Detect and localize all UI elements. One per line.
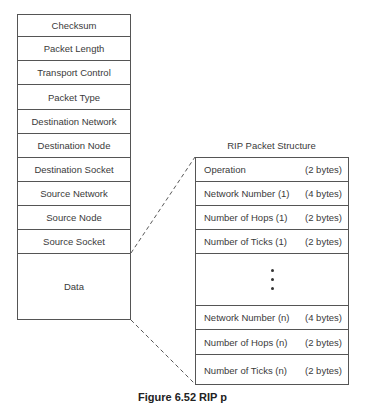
ipx-field-destination-network: Destination Network (18, 110, 130, 134)
rip-row-operation: Operation (2 bytes) (196, 158, 348, 182)
rip-row-ticks-1: Number of Ticks (1) (2 bytes) (196, 230, 348, 254)
rip-packet-diagram: Operation (2 bytes) Network Number (1) (… (195, 157, 349, 385)
rip-field-size: (2 bytes) (305, 337, 342, 348)
rip-field-name: Network Number (1) (204, 188, 290, 199)
ipx-field-data: Data (18, 254, 130, 319)
figure-caption: Figure 6.52 RIP p (0, 391, 365, 403)
connector-bottom-dashed-line (131, 320, 195, 384)
ellipsis-dot (271, 287, 274, 290)
rip-row-hops-n: Number of Hops (n) (2 bytes) (196, 331, 348, 355)
ipx-field-checksum: Checksum (18, 15, 130, 37)
rip-field-size: (2 bytes) (305, 236, 342, 247)
ipx-field-destination-node: Destination Node (18, 134, 130, 158)
rip-field-size: (4 bytes) (305, 312, 342, 323)
rip-row-ticks-n: Number of Ticks (n) (2 bytes) (196, 356, 348, 385)
rip-field-name: Number of Hops (n) (204, 337, 287, 348)
rip-field-size: (2 bytes) (305, 164, 342, 175)
rip-field-name: Number of Ticks (n) (204, 365, 287, 376)
ellipsis-dot (271, 269, 274, 272)
rip-row-network-number-n: Network Number (n) (4 bytes) (196, 306, 348, 330)
connector-top-dashed-line (131, 157, 195, 253)
ipx-field-packet-type: Packet Type (18, 86, 130, 110)
rip-field-size: (4 bytes) (305, 188, 342, 199)
rip-field-name: Number of Ticks (1) (204, 236, 287, 247)
rip-structure-title: RIP Packet Structure (195, 140, 348, 151)
ellipsis-dot (271, 278, 274, 281)
rip-field-size: (2 bytes) (305, 212, 342, 223)
rip-row-network-number-1: Network Number (1) (4 bytes) (196, 182, 348, 206)
ipx-field-transport-control: Transport Control (18, 61, 130, 85)
rip-field-name: Operation (204, 164, 246, 175)
rip-field-size: (2 bytes) (305, 365, 342, 376)
rip-field-name: Number of Hops (1) (204, 212, 287, 223)
ipx-field-source-network: Source Network (18, 182, 130, 206)
rip-repeat-ellipsis (196, 254, 348, 306)
ipx-field-source-socket: Source Socket (18, 230, 130, 254)
rip-field-name: Network Number (n) (204, 312, 290, 323)
ipx-field-source-node: Source Node (18, 206, 130, 230)
ipx-packet-diagram: Checksum Packet Length Transport Control… (17, 14, 131, 320)
ipx-field-destination-socket: Destination Socket (18, 158, 130, 182)
ipx-field-packet-length: Packet Length (18, 37, 130, 61)
rip-row-hops-1: Number of Hops (1) (2 bytes) (196, 206, 348, 230)
